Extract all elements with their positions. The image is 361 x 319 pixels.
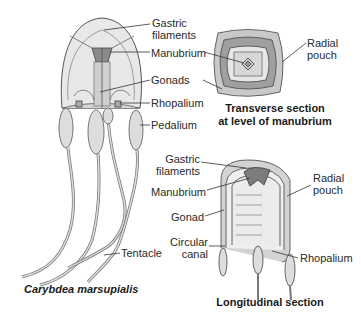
label-circular-line2: canal — [140, 248, 208, 260]
species-caption: Carybdea marsupialis — [24, 283, 138, 296]
label-radial-line2: pouch — [307, 49, 338, 61]
label-rhopalium: Rhopalium — [151, 97, 204, 109]
label-pedalium: Pedalium — [151, 119, 197, 131]
label-radial-line2: pouch — [313, 184, 344, 196]
label-radial-line1: Radial — [307, 37, 338, 49]
label-radial-line1: Radial — [313, 172, 344, 184]
longitudinal-section-caption: Longitudinal section — [200, 296, 340, 309]
label-gonads: Gonads — [151, 74, 190, 86]
label-radial-pouch-transverse: Radial pouch — [307, 37, 338, 61]
transverse-section-caption: Transverse section at level of manubrium — [210, 102, 340, 128]
label-gastric-line1: Gastric — [140, 153, 200, 165]
longitudinal-section-illustration — [219, 160, 295, 300]
caption-line1: Transverse section — [210, 102, 340, 115]
label-circular-line1: Circular — [140, 236, 208, 248]
label-gastric-line2: filaments — [152, 29, 196, 41]
transverse-section-illustration — [214, 30, 283, 97]
label-manubrium-longitudinal: Manubrium — [140, 186, 206, 198]
jellyfish-illustration — [22, 18, 143, 285]
label-rhopalium-longitudinal: Rhopalium — [300, 252, 353, 264]
label-gastric-filaments-longitudinal: Gastric filaments — [140, 153, 200, 177]
label-gastric-filaments: Gastric filaments — [152, 17, 196, 41]
label-radial-pouch-longitudinal: Radial pouch — [313, 172, 344, 196]
label-gastric-line1: Gastric — [152, 17, 196, 29]
caption-line2: at level of manubrium — [210, 115, 340, 128]
label-circular-canal: Circular canal — [140, 236, 208, 260]
label-gastric-line2: filaments — [140, 165, 200, 177]
label-manubrium: Manubrium — [151, 47, 206, 59]
label-gonad-longitudinal: Gonad — [140, 211, 204, 223]
